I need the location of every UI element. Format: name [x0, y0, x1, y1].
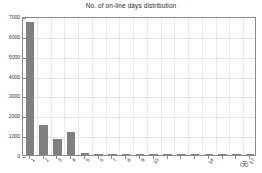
bar — [246, 154, 255, 155]
x-tick-mark — [167, 156, 168, 159]
y-tick-label: 7000 — [9, 14, 20, 20]
y-axis: 01000200030004000500060007000 — [0, 0, 22, 173]
x-tick-label: 14 — [206, 157, 214, 165]
bar — [53, 139, 62, 155]
x-axis-unit-label: (天) — [240, 160, 248, 167]
x-tick-label: 4 — [70, 157, 76, 163]
x-tick-label: 17 — [248, 157, 256, 165]
x-tick-mark — [222, 156, 223, 159]
bar — [39, 125, 48, 155]
bar — [149, 154, 158, 155]
x-tick-label: 10 — [151, 157, 159, 165]
x-tick-mark — [235, 156, 236, 159]
bar — [136, 154, 145, 155]
y-tick-label: 2000 — [9, 113, 20, 119]
chart-title: No. of on-line days distribution — [0, 2, 262, 9]
x-tick-label: 1 — [29, 157, 35, 163]
bar — [191, 154, 200, 155]
y-tick-label: 6000 — [9, 34, 20, 40]
x-tick-label: 5 — [84, 157, 90, 163]
bar — [232, 154, 241, 155]
bar — [108, 154, 117, 155]
x-tick-label: 7 — [112, 157, 118, 163]
y-tick-label: 0 — [17, 153, 20, 159]
bar — [205, 154, 214, 155]
bar — [94, 154, 103, 155]
bar — [218, 154, 227, 155]
x-tick-label: 6 — [98, 157, 104, 163]
plot-area — [22, 17, 256, 156]
bar — [163, 154, 172, 155]
x-tick-label: 9 — [139, 157, 145, 163]
chart-figure: No. of on-line days distribution 0100020… — [0, 0, 262, 173]
x-tick-mark — [194, 156, 195, 159]
y-tick-label: 4000 — [9, 74, 20, 80]
bar — [81, 153, 90, 155]
bar — [122, 154, 131, 155]
bar-series — [23, 18, 255, 155]
x-axis: 123456789101417(天) — [22, 156, 256, 173]
bar — [177, 154, 186, 155]
y-tick-label: 1000 — [9, 133, 20, 139]
x-tick-label: 8 — [126, 157, 132, 163]
bar — [67, 132, 76, 155]
bar — [26, 22, 35, 155]
y-tick-label: 5000 — [9, 54, 20, 60]
x-tick-mark — [180, 156, 181, 159]
x-tick-label: 3 — [57, 157, 63, 163]
y-tick-label: 3000 — [9, 93, 20, 99]
x-tick-label: 2 — [43, 157, 49, 163]
